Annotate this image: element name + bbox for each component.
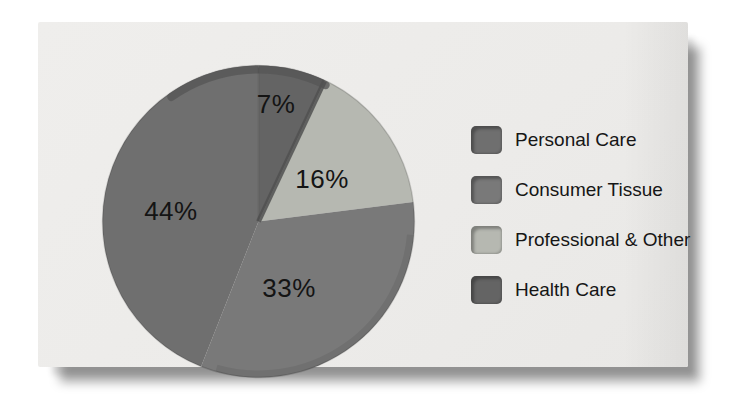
pie-label-professional-other: 16% <box>295 163 349 194</box>
legend-label-personal-care: Personal Care <box>515 129 636 151</box>
pie-label-personal-care: 44% <box>144 196 198 227</box>
legend-item-professional-other: Professional & Other <box>471 226 690 254</box>
legend-swatch-health-care <box>471 276 502 304</box>
legend-item-health-care: Health Care <box>471 276 690 304</box>
legend: Personal Care Consumer Tissue Profession… <box>471 126 690 326</box>
legend-swatch-personal-care <box>471 126 502 154</box>
pie-label-health-care: 7% <box>257 89 296 120</box>
legend-label-professional-other: Professional & Other <box>515 229 690 251</box>
pie-chart: 7% 16% 33% 44% <box>101 64 416 379</box>
legend-swatch-consumer-tissue <box>471 176 502 204</box>
legend-label-health-care: Health Care <box>515 279 616 301</box>
scanned-page: 7% 16% 33% 44% Personal Care Consumer Ti… <box>0 0 740 411</box>
legend-swatch-professional-other <box>471 226 502 254</box>
pie-label-consumer-tissue: 33% <box>262 272 316 303</box>
legend-item-consumer-tissue: Consumer Tissue <box>471 176 690 204</box>
legend-item-personal-care: Personal Care <box>471 126 690 154</box>
legend-label-consumer-tissue: Consumer Tissue <box>515 179 663 201</box>
chart-panel: 7% 16% 33% 44% Personal Care Consumer Ti… <box>38 22 688 367</box>
